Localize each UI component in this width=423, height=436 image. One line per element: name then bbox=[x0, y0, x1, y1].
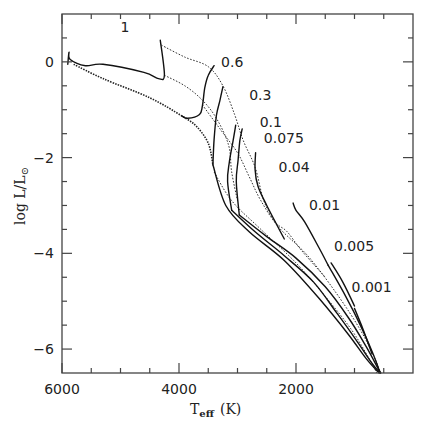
isochrone-line bbox=[74, 64, 213, 165]
y-tick-label: −6 bbox=[33, 341, 54, 357]
x-tick-label: 6000 bbox=[44, 381, 80, 397]
y-tick-label: −4 bbox=[33, 245, 54, 261]
x-tick-label: 2000 bbox=[278, 381, 314, 397]
mass-label: 0.005 bbox=[334, 238, 374, 254]
y-axis-title: log L/L⊙ bbox=[12, 167, 30, 225]
mass-labels: 10.60.30.10.0750.040.010.0050.001 bbox=[121, 19, 392, 294]
mass-label: 0.001 bbox=[352, 279, 392, 295]
mass-label: 0.1 bbox=[260, 114, 282, 130]
mass-track-0.6 bbox=[182, 66, 214, 119]
hr-diagram-chart: 10.60.30.10.0750.040.010.0050.001 600040… bbox=[0, 0, 423, 436]
mass-label: 0.01 bbox=[309, 197, 340, 213]
y-tick-label: −2 bbox=[33, 150, 54, 166]
mass-label: 0.04 bbox=[279, 159, 310, 175]
y-tick-label: 0 bbox=[45, 54, 54, 70]
mass-track-1 bbox=[68, 40, 165, 79]
mass-label: 0.6 bbox=[221, 54, 243, 70]
low-mass-track-lines bbox=[213, 165, 381, 373]
axis-tick-labels: 6000400020000−2−4−6 bbox=[33, 54, 313, 397]
isochrone-line bbox=[164, 75, 237, 200]
x-tick-label: 4000 bbox=[161, 381, 197, 397]
mass-label: 0.075 bbox=[264, 130, 304, 146]
mass-label: 0.3 bbox=[249, 87, 271, 103]
mass-track-0.075 bbox=[236, 129, 242, 215]
mass-label: 1 bbox=[121, 19, 130, 35]
x-axis-title: Teff(K) bbox=[190, 401, 241, 419]
